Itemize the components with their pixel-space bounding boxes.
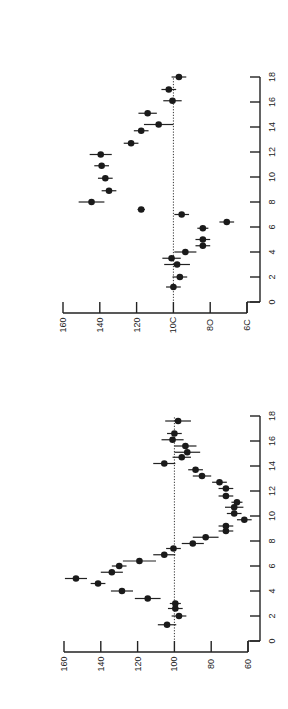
data-point (158, 621, 176, 628)
data-point (65, 575, 87, 582)
data-point (182, 540, 204, 547)
data-point (163, 97, 181, 104)
data-point (134, 127, 149, 134)
point-marker (144, 595, 151, 602)
data-point (162, 436, 184, 443)
point-marker (138, 127, 145, 134)
data-point (164, 261, 190, 268)
point-marker (200, 225, 207, 232)
point-marker (190, 540, 197, 547)
data-point (101, 569, 123, 576)
value-tick-label: 160 (59, 656, 69, 671)
point-marker (73, 575, 80, 582)
data-point (153, 551, 175, 558)
data-point (79, 199, 105, 206)
point-marker (182, 249, 189, 256)
point-marker (199, 473, 206, 480)
data-point (98, 175, 113, 182)
point-marker (176, 613, 183, 620)
data-point (138, 206, 145, 213)
time-tick-label: 18 (267, 411, 277, 421)
data-point (174, 211, 189, 218)
point-marker (216, 479, 223, 486)
point-marker (109, 569, 116, 576)
time-tick-label: 6 (267, 563, 277, 568)
point-marker (241, 516, 248, 523)
data-point (102, 187, 117, 194)
point-marker (176, 74, 183, 81)
point-marker (202, 534, 209, 541)
data-point (212, 479, 227, 486)
point-marker (144, 110, 151, 117)
time-tick-label: 4 (267, 249, 277, 254)
point-marker (200, 242, 207, 249)
time-tick-label: 0 (267, 299, 277, 304)
point-marker (88, 199, 95, 206)
data-point (124, 140, 139, 147)
upper-chart-panel: 02468101214161816014012010C8O6C (58, 72, 277, 333)
point-marker (170, 284, 177, 291)
value-tick-label: 140 (96, 656, 106, 671)
point-marker (169, 436, 176, 443)
value-tick-label: 140 (95, 317, 105, 332)
data-point (123, 558, 156, 565)
value-tick-label: 80 (206, 659, 216, 669)
time-tick-label: 12 (267, 486, 277, 496)
point-marker (172, 600, 179, 607)
point-marker (223, 485, 230, 492)
data-points (65, 418, 252, 628)
point-marker (128, 140, 135, 147)
value-tick-label: 8O (205, 319, 215, 331)
data-point (112, 563, 127, 570)
time-tick-label: 2 (267, 274, 277, 279)
point-marker (136, 558, 143, 565)
figure: 02468101214161816014012010C8O6C 02468101… (0, 0, 288, 709)
data-point (91, 580, 106, 587)
point-marker (177, 274, 184, 281)
value-tick-label: 60 (243, 659, 253, 669)
value-tick-label: 6C (242, 319, 252, 331)
point-marker (223, 493, 230, 500)
point-marker (161, 460, 168, 467)
data-points (79, 74, 234, 291)
data-point (161, 86, 176, 93)
data-point (237, 516, 252, 523)
data-point (193, 473, 211, 480)
data-point (138, 110, 156, 117)
point-marker (178, 454, 185, 461)
lower-chart-panel: 0246810121416181601401201008060 (59, 411, 277, 672)
data-point (94, 162, 109, 169)
point-marker (116, 563, 123, 570)
point-marker (231, 510, 238, 517)
time-tick-label: 18 (267, 72, 277, 82)
data-point (166, 284, 181, 291)
point-marker (234, 499, 241, 506)
point-marker (95, 580, 102, 587)
data-point (219, 219, 234, 226)
data-point (195, 236, 210, 243)
point-marker (223, 219, 230, 226)
point-marker (161, 551, 168, 558)
point-marker (119, 588, 126, 595)
time-axis: 024681012141618 (250, 411, 277, 644)
point-marker (200, 236, 207, 243)
time-tick-label: 10 (267, 172, 277, 182)
value-axis: 1601401201008060 (59, 641, 260, 672)
value-tick-label: 100 (169, 656, 179, 671)
time-axis: 024681012141618 (250, 72, 277, 305)
point-marker (184, 449, 191, 456)
data-point (135, 595, 161, 602)
point-marker (174, 261, 181, 268)
data-point (225, 504, 243, 511)
data-point (197, 225, 208, 232)
data-point (172, 274, 187, 281)
value-tick-label: 120 (133, 656, 143, 671)
point-marker (166, 86, 173, 93)
value-axis: 16014012010C8O6C (58, 302, 260, 333)
data-point (174, 443, 196, 450)
point-marker (168, 255, 175, 262)
time-tick-label: 8 (267, 199, 277, 204)
point-marker (97, 151, 104, 158)
point-marker (175, 418, 182, 425)
point-marker (171, 430, 178, 437)
